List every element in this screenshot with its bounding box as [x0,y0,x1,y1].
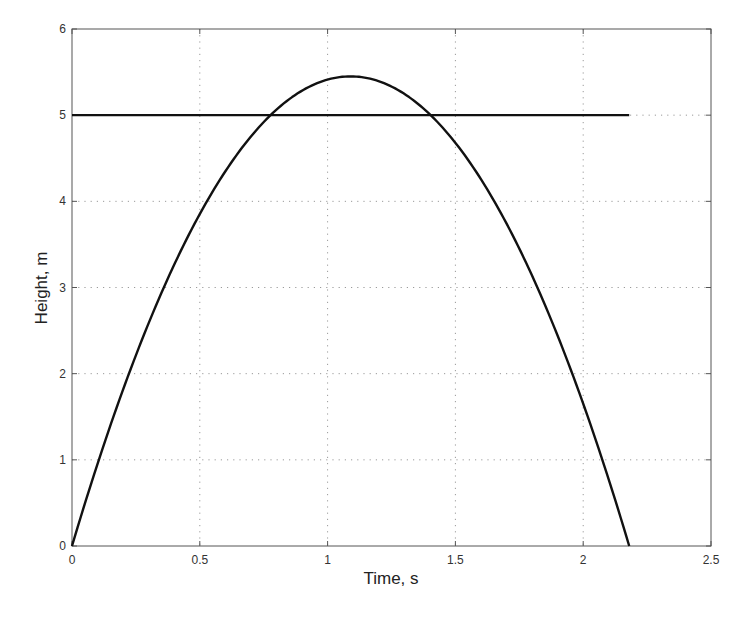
x-tick-labels: 00.511.522.5 [69,553,720,567]
grid-lines [72,29,711,546]
y-tick-label: 4 [59,194,66,208]
trajectory-line [72,76,629,546]
y-tick-label: 6 [59,22,66,36]
x-tick-label: 0.5 [191,553,208,567]
plot-frame [72,29,711,546]
y-tick-label: 0 [59,539,66,553]
x-axis-label: Time, s [363,569,418,588]
y-tick-label: 2 [59,367,66,381]
y-axis-label: Height, m [32,252,51,325]
data-series [72,76,629,546]
axis-ticks [72,29,711,546]
x-tick-label: 0 [69,553,76,567]
x-tick-label: 2 [580,553,587,567]
chart: 00.511.522.5 0123456 Time, s Height, m [0,0,755,618]
y-tick-label: 1 [59,453,66,467]
y-tick-label: 3 [59,281,66,295]
y-tick-label: 5 [59,108,66,122]
x-tick-label: 2.5 [703,553,720,567]
y-tick-labels: 0123456 [59,22,66,553]
x-tick-label: 1 [324,553,331,567]
x-tick-label: 1.5 [447,553,464,567]
